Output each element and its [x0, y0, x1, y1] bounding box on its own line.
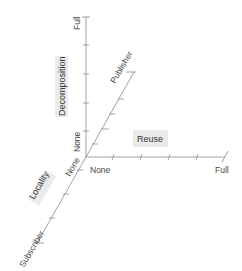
decomposition-max-label: Full	[72, 16, 82, 30]
locality-min-label: None	[63, 155, 82, 178]
subscriber-label: Subscriber	[17, 229, 46, 269]
decomposition-label: Decomposition	[57, 56, 67, 116]
reuse-label: Reuse	[137, 134, 163, 144]
three-axis-diagram: Decomposition Full None Publisher Reuse …	[0, 0, 242, 271]
reuse-max-label: Full	[215, 165, 229, 175]
reuse-min-label: None	[90, 165, 111, 175]
decomposition-min-label: None	[72, 131, 82, 152]
publisher-label: Publisher	[108, 49, 134, 85]
